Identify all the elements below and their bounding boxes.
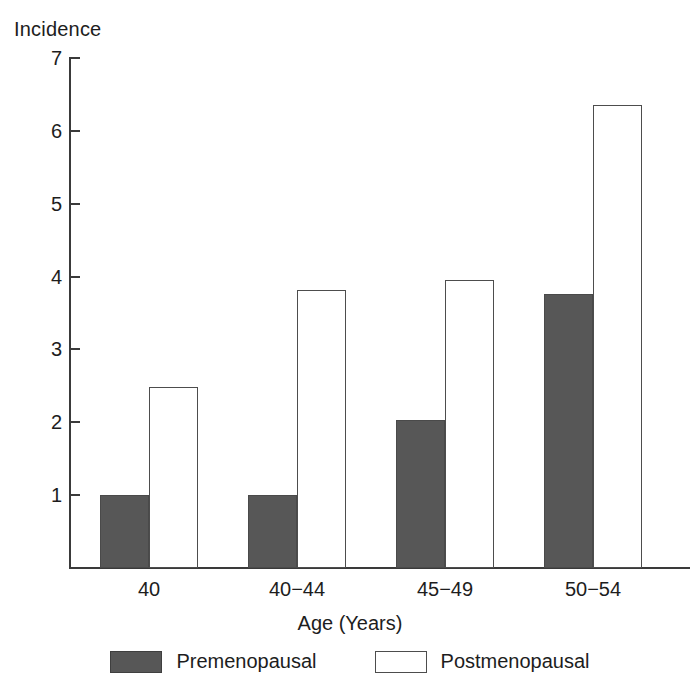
x-tick-label-2: 45−49 (417, 578, 473, 601)
bar-premenopausal-50−54 (544, 294, 593, 568)
legend-swatch-postmenopausal (375, 651, 427, 673)
legend-label-premenopausal: Premenopausal (176, 650, 316, 673)
bar-premenopausal-40−44 (248, 495, 297, 568)
y-tick-label-7: 7 (0, 47, 62, 70)
x-axis-title: Age (Years) (0, 612, 700, 635)
y-tick-label-4: 4 (0, 265, 62, 288)
y-tick-label-2: 2 (0, 411, 62, 434)
y-tick-label-5: 5 (0, 192, 62, 215)
legend-item-premenopausal[interactable]: Premenopausal (110, 650, 316, 673)
bar-postmenopausal-40−44 (297, 290, 346, 568)
legend-item-postmenopausal[interactable]: Postmenopausal (375, 650, 590, 673)
bar-premenopausal-40 (100, 495, 149, 568)
bar-postmenopausal-40 (149, 387, 198, 568)
y-tick-label-6: 6 (0, 119, 62, 142)
bar-postmenopausal-50−54 (593, 105, 642, 568)
y-tick-label-1: 1 (0, 484, 62, 507)
x-tick-label-1: 40−44 (269, 578, 325, 601)
y-tick-label-3: 3 (0, 338, 62, 361)
legend-label-postmenopausal: Postmenopausal (441, 650, 590, 673)
chart-page: Incidence 1234567 4040−4445−4950−54 Age … (0, 0, 700, 692)
bars-layer (69, 58, 690, 568)
bar-premenopausal-45−49 (396, 420, 445, 568)
legend-swatch-premenopausal (110, 651, 162, 673)
plot-area: 1234567 4040−4445−4950−54 (0, 0, 700, 692)
x-tick-label-0: 40 (138, 578, 160, 601)
x-tick-label-3: 50−54 (565, 578, 621, 601)
bar-postmenopausal-45−49 (445, 280, 494, 569)
chart-legend: PremenopausalPostmenopausal (0, 650, 700, 673)
